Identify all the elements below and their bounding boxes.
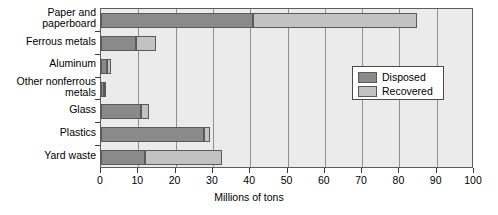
- x-axis-tick-label: 60: [309, 174, 339, 186]
- x-axis-tick: [249, 168, 250, 173]
- category-label: Glass: [69, 104, 96, 116]
- x-axis-tick-label: 30: [197, 174, 227, 186]
- category-label: Paper and paperboard: [42, 7, 96, 30]
- bar-segment-recovered: [104, 82, 106, 97]
- x-axis-tick: [361, 168, 362, 173]
- x-axis-tick: [398, 168, 399, 173]
- bar-segment-disposed: [101, 104, 141, 119]
- x-axis-tick: [324, 168, 325, 173]
- x-axis-tick-label: 50: [272, 174, 302, 186]
- legend-swatch-disposed: [358, 72, 377, 83]
- bar-segment-recovered: [107, 59, 111, 74]
- category-tick: [95, 145, 100, 146]
- legend-item-recovered: Recovered: [358, 85, 433, 98]
- category-tick: [95, 99, 100, 100]
- x-axis-tick: [212, 168, 213, 173]
- category-label: Aluminum: [49, 58, 96, 70]
- x-axis-title: Millions of tons: [0, 191, 498, 203]
- category-tick: [95, 31, 100, 32]
- x-axis-tick: [175, 168, 176, 173]
- bar-segment-recovered: [253, 13, 417, 28]
- x-axis-tick: [436, 168, 437, 173]
- x-axis-tick-label: 40: [234, 174, 264, 186]
- x-axis-tick: [473, 168, 474, 173]
- bar-segment-recovered: [145, 150, 222, 165]
- x-axis-tick-label: 0: [85, 174, 115, 186]
- x-axis-tick-label: 100: [458, 174, 488, 186]
- bar-segment-recovered: [204, 127, 210, 142]
- gridline: [138, 9, 139, 167]
- legend-label-recovered: Recovered: [382, 86, 433, 97]
- bar-segment-disposed: [101, 36, 136, 51]
- legend-item-disposed: Disposed: [358, 71, 426, 84]
- x-axis-tick: [137, 168, 138, 173]
- category-tick: [95, 122, 100, 123]
- legend-swatch-recovered: [358, 86, 377, 97]
- bar-segment-disposed: [101, 127, 204, 142]
- category-tick: [95, 54, 100, 55]
- gridline: [288, 9, 289, 167]
- x-axis-tick: [100, 168, 101, 173]
- gridline: [250, 9, 251, 167]
- bar-segment-recovered: [141, 104, 149, 119]
- gridline: [213, 9, 214, 167]
- bar-segment-recovered: [136, 36, 156, 51]
- bar-segment-disposed: [101, 13, 253, 28]
- x-axis-tick-label: 80: [383, 174, 413, 186]
- x-axis-tick-label: 90: [421, 174, 451, 186]
- x-axis-tick-label: 20: [160, 174, 190, 186]
- x-axis-tick: [287, 168, 288, 173]
- category-label: Ferrous metals: [26, 36, 96, 48]
- gridline: [325, 9, 326, 167]
- category-tick: [95, 77, 100, 78]
- legend: Disposed Recovered: [352, 66, 444, 100]
- category-label: Yard waste: [44, 150, 96, 162]
- bar-chart: Paper and paperboardFerrous metalsAlumin…: [0, 0, 498, 215]
- x-axis-tick-label: 10: [122, 174, 152, 186]
- x-axis-tick-label: 70: [346, 174, 376, 186]
- category-label: Plastics: [60, 127, 96, 139]
- legend-label-disposed: Disposed: [382, 72, 426, 83]
- gridline: [176, 9, 177, 167]
- bar-segment-disposed: [101, 150, 145, 165]
- category-label: Other nonferrous metals: [17, 76, 96, 99]
